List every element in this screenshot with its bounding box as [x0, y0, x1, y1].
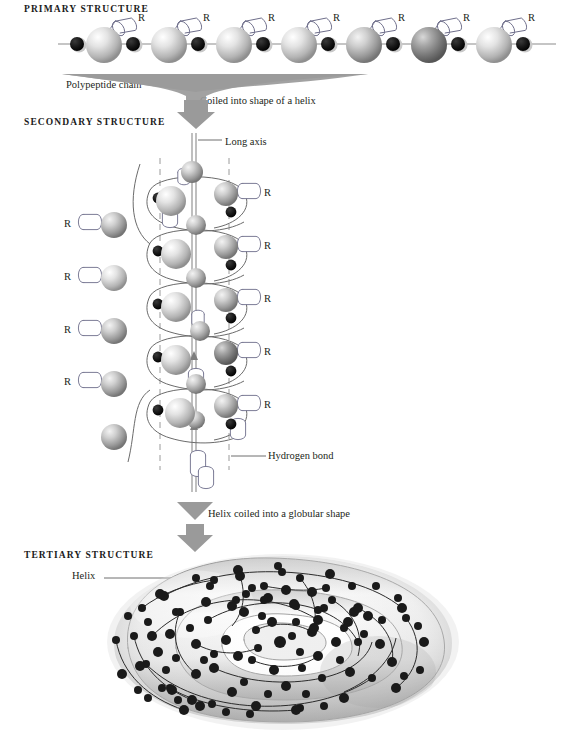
secondary-helix-group [78, 133, 266, 492]
helix-to-globular-arrow [177, 502, 213, 552]
r-label-helix-left-1: R [64, 218, 71, 229]
tertiary-globule-group [104, 554, 459, 730]
r-label-helix-right-3: R [264, 293, 271, 304]
r-label-helix-left-2: R [64, 271, 71, 282]
r-label-primary-1: R [138, 12, 145, 23]
r-label-helix-right-4: R [264, 346, 271, 357]
r-label-primary-6: R [463, 12, 470, 23]
r-label-helix-right-5: R [264, 399, 271, 410]
protein-structure-figure: PRIMARY STRUCTURE SECONDARY STRUCTURE TE… [0, 0, 567, 733]
r-label-helix-left-3: R [64, 324, 71, 335]
r-label-helix-right-1: R [264, 187, 271, 198]
coiled-into-helix-arrow [62, 74, 368, 129]
r-label-primary-2: R [203, 12, 210, 23]
figure-artwork: R R R R R R R R R R R R R R R R [0, 0, 567, 733]
r-label-primary-3: R [268, 12, 275, 23]
helix-r-groups-left [78, 214, 112, 387]
primary-chain-group [58, 12, 556, 63]
r-label-primary-7: R [528, 12, 535, 23]
r-label-primary-5: R [398, 12, 405, 23]
r-label-helix-right-2: R [264, 240, 271, 251]
r-label-helix-left-4: R [64, 376, 71, 387]
r-group-text-labels: R R R R R R R R R R R R R R R R [64, 12, 535, 410]
r-label-primary-4: R [333, 12, 340, 23]
